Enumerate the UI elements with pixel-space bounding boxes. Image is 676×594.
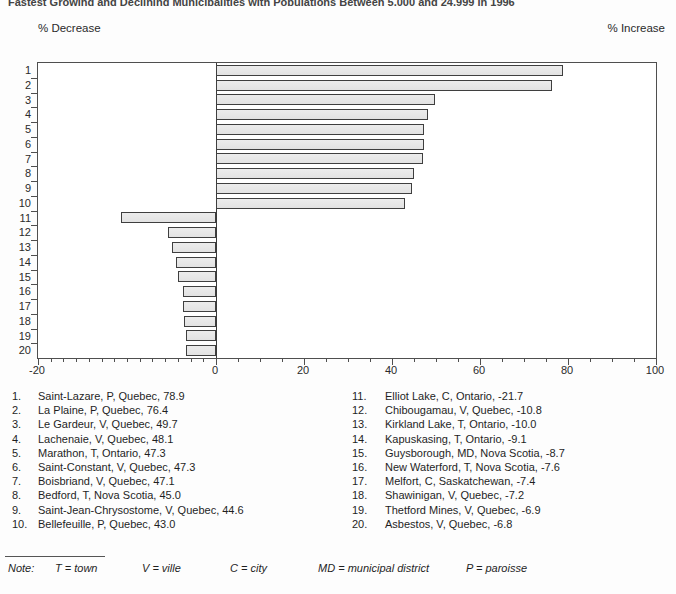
ranking-rank: 16. xyxy=(352,460,385,474)
x-axis-tick-label: 20 xyxy=(297,364,309,376)
y-axis-tick xyxy=(31,270,38,271)
y-axis-tick xyxy=(31,93,38,94)
bar-3 xyxy=(216,94,435,105)
zero-axis-line xyxy=(216,63,217,358)
note-item: V = ville xyxy=(142,562,181,574)
ranking-rank: 11. xyxy=(352,389,385,403)
x-axis-minor-tick xyxy=(152,358,153,362)
ranking-item-4: 4.Lachenaie, V, Quebec, 48.1 xyxy=(12,432,342,446)
ranking-label: Elliot Lake, C, Ontario, -21.7 xyxy=(385,389,523,403)
y-axis-tick xyxy=(31,255,38,256)
x-axis-minor-tick xyxy=(370,358,371,362)
ranking-rank: 17. xyxy=(352,474,385,488)
ranking-rank: 15. xyxy=(352,446,385,460)
x-axis-tick-label: 100 xyxy=(646,364,664,376)
ranking-item-13: 13.Kirkland Lake, T, Ontario, -10.0 xyxy=(352,417,672,431)
x-axis-minor-tick xyxy=(191,358,192,362)
y-axis-tick xyxy=(31,343,38,344)
ranking-item-12: 12.Chibougamau, V, Quebec, -10.8 xyxy=(352,403,672,417)
x-axis-minor-tick xyxy=(102,358,103,362)
y-axis-label-12: 12 xyxy=(7,226,31,239)
note-item: T = town xyxy=(55,562,98,574)
bar-5 xyxy=(216,124,424,135)
y-axis-label-4: 4 xyxy=(7,108,31,121)
bar-17 xyxy=(183,301,216,312)
ranking-label: Le Gardeur, V, Quebec, 49.7 xyxy=(38,417,178,431)
y-axis-label-19: 19 xyxy=(7,330,31,343)
y-axis-tick xyxy=(31,152,38,153)
ranking-item-3: 3.Le Gardeur, V, Quebec, 49.7 xyxy=(12,417,342,431)
y-axis-tick xyxy=(31,196,38,197)
bar-14 xyxy=(176,257,216,268)
y-axis-tick xyxy=(31,240,38,241)
bar-1 xyxy=(216,65,563,76)
ranking-label: Bellefeuille, P, Quebec, 43.0 xyxy=(38,517,175,531)
ranking-rank: 1. xyxy=(12,389,38,403)
increase-header-label: % Increase xyxy=(607,22,665,34)
note-item: P = paroisse xyxy=(466,562,527,574)
ranking-label: Bedford, T, Nova Scotia, 45.0 xyxy=(38,488,181,502)
ranking-label: Melfort, C, Saskatchewan, -7.4 xyxy=(385,474,535,488)
x-axis-tick-label: 40 xyxy=(385,364,397,376)
bar-18 xyxy=(184,316,216,327)
ranking-rank: 14. xyxy=(352,432,385,446)
ranking-rank: 4. xyxy=(12,432,38,446)
ranking-label: Lachenaie, V, Quebec, 48.1 xyxy=(38,432,173,446)
ranking-rank: 12. xyxy=(352,403,385,417)
x-axis-minor-tick xyxy=(348,358,349,362)
ranking-item-6: 6.Saint-Constant, V, Quebec, 47.3 xyxy=(12,460,342,474)
y-axis-label-20: 20 xyxy=(7,344,31,357)
bar-4 xyxy=(216,109,428,120)
ranking-item-14: 14.Kapuskasing, T, Ontario, -9.1 xyxy=(352,432,672,446)
ranking-item-20: 20.Asbestos, V, Quebec, -6.8 xyxy=(352,517,672,531)
x-axis-minor-tick xyxy=(282,358,283,362)
y-axis-label-18: 18 xyxy=(7,315,31,328)
y-axis-label-8: 8 xyxy=(7,167,31,180)
ranking-item-2: 2.La Plaine, P, Quebec, 76.4 xyxy=(12,403,342,417)
x-axis-minor-tick xyxy=(63,358,64,362)
x-axis-tick-label: -20 xyxy=(29,364,45,376)
bar-15 xyxy=(178,271,216,282)
ranking-rank: 9. xyxy=(12,503,38,517)
ranking-label: Shawinigan, V, Quebec, -7.2 xyxy=(385,488,524,502)
x-axis-minor-tick xyxy=(590,358,591,362)
x-axis-minor-tick xyxy=(89,358,90,362)
ranking-label: Boisbriand, V, Quebec, 47.1 xyxy=(38,474,175,488)
ranking-item-16: 16.New Waterford, T, Nova Scotia, -7.6 xyxy=(352,460,672,474)
note-item: MD = municipal district xyxy=(318,562,429,574)
x-axis-minor-tick xyxy=(76,358,77,362)
y-axis-tick xyxy=(31,211,38,212)
x-axis-labels: -20020406080100 xyxy=(37,364,655,378)
y-axis-label-9: 9 xyxy=(7,182,31,195)
y-axis-label-16: 16 xyxy=(7,285,31,298)
chart-page: Fastest Growing and Declining Municipali… xyxy=(0,0,676,594)
x-axis-minor-tick xyxy=(502,358,503,362)
x-axis-minor-tick xyxy=(414,358,415,362)
ranking-rank: 6. xyxy=(12,460,38,474)
x-axis-minor-tick xyxy=(546,358,547,362)
rankings-left-column: 1.Saint-Lazare, P, Quebec, 78.92.La Plai… xyxy=(12,389,342,531)
x-axis-tick-label: 0 xyxy=(212,364,218,376)
ranking-item-17: 17.Melfort, C, Saskatchewan, -7.4 xyxy=(352,474,672,488)
bar-20 xyxy=(186,345,216,356)
ranking-rank: 7. xyxy=(12,474,38,488)
y-axis-tick xyxy=(31,107,38,108)
note-item: C = city xyxy=(230,562,267,574)
y-axis-label-7: 7 xyxy=(7,153,31,166)
y-axis-tick xyxy=(31,137,38,138)
ranking-item-11: 11.Elliot Lake, C, Ontario, -21.7 xyxy=(352,389,672,403)
bar-6 xyxy=(216,139,424,150)
y-axis-label-6: 6 xyxy=(7,138,31,151)
plot-area: 1234567891011121314151617181920 xyxy=(37,62,657,359)
y-axis-tick xyxy=(31,166,38,167)
y-axis-tick xyxy=(31,284,38,285)
ranking-label: Chibougamau, V, Quebec, -10.8 xyxy=(385,403,542,417)
rankings-right-column: 11.Elliot Lake, C, Ontario, -21.712.Chib… xyxy=(352,389,672,531)
ranking-rank: 2. xyxy=(12,403,38,417)
x-axis-minor-tick xyxy=(178,358,179,362)
ranking-item-18: 18.Shawinigan, V, Quebec, -7.2 xyxy=(352,488,672,502)
y-axis-label-11: 11 xyxy=(7,212,31,225)
x-axis-minor-tick xyxy=(238,358,239,362)
x-axis-tick-label: 60 xyxy=(473,364,485,376)
ranking-rank: 18. xyxy=(352,488,385,502)
